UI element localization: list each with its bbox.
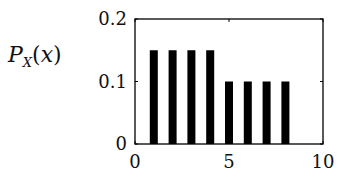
bar — [263, 82, 271, 145]
x-tick-label: 5 — [223, 151, 234, 172]
bar — [225, 82, 233, 145]
bar — [169, 50, 177, 144]
bar — [150, 50, 158, 144]
bar — [206, 50, 214, 144]
y-tick-label: 0 — [116, 133, 127, 154]
y-tick-label: 0.1 — [98, 71, 127, 92]
bar — [281, 82, 289, 145]
bar — [244, 82, 252, 145]
bar-chart: 00.10.2 0510 — [0, 0, 345, 185]
x-tick-label: 0 — [129, 151, 140, 172]
bar — [187, 50, 195, 144]
x-tick-label: 10 — [312, 151, 335, 172]
y-tick-label: 0.2 — [98, 8, 127, 29]
bars — [150, 50, 290, 144]
